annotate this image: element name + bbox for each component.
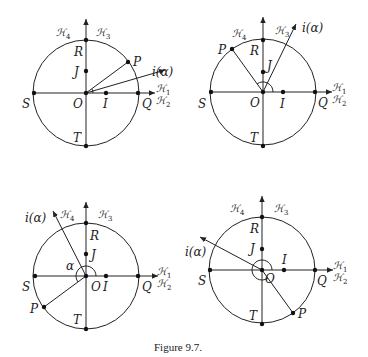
figure-9-7: ℋ4 ℋ3 ℋ1 ℋ2 R J S O I Q T P i(α) ℋ4 ℋ3 ℋ… <box>0 0 368 357</box>
figure-caption: Figure 9.7. <box>154 341 202 353</box>
label-Q: Q <box>142 280 152 294</box>
label-H4: ℋ4 <box>56 27 71 41</box>
label-T: T <box>73 131 82 145</box>
label-S: S <box>198 274 206 288</box>
label-O: O <box>250 96 260 110</box>
label-P: P <box>132 55 142 69</box>
panel-top-left: ℋ4 ℋ3 ℋ1 ℋ2 R J S O I Q T P i(α) <box>22 19 174 148</box>
label-H2: ℋ2 <box>332 94 346 108</box>
label-I: I <box>279 97 285 111</box>
label-H2: ℋ2 <box>333 272 347 286</box>
label-H4: ℋ4 <box>60 209 75 223</box>
label-P: P <box>217 43 227 57</box>
label-Q: Q <box>142 97 152 111</box>
label-I: I <box>102 97 108 111</box>
panel-bottom-right: ℋ4 ℋ3 ℋ1 ℋ2 i(α) R J I S O Q T P <box>185 196 347 326</box>
label-Q: Q <box>317 274 327 288</box>
label-O: O <box>73 97 83 111</box>
label-Q: Q <box>318 96 328 110</box>
label-J: J <box>247 242 256 256</box>
label-alpha: α <box>66 259 74 273</box>
label-i-alpha: i(α) <box>302 21 324 35</box>
label-I: I <box>102 280 108 294</box>
label-P: P <box>297 307 307 321</box>
label-i-alpha: i(α) <box>25 211 47 225</box>
label-S: S <box>22 97 30 111</box>
label-H2: ℋ2 <box>156 95 170 109</box>
label-H3: ℋ3 <box>96 27 110 41</box>
label-H3: ℋ3 <box>98 209 112 223</box>
label-H3: ℋ3 <box>274 203 288 217</box>
label-J: J <box>264 59 273 73</box>
label-P: P <box>29 302 39 316</box>
label-H4: ℋ4 <box>232 28 247 42</box>
label-S: S <box>22 280 30 294</box>
segment-OP <box>86 62 128 93</box>
label-R: R <box>249 44 259 58</box>
panel-top-right: ℋ4 ℋ3 ℋ1 ℋ2 i(α) P R J S O I Q T <box>198 17 346 148</box>
label-T: T <box>249 309 258 323</box>
label-H2: ℋ2 <box>157 278 171 292</box>
label-J: J <box>88 248 97 262</box>
label-I: I <box>281 253 287 267</box>
label-R: R <box>249 222 259 236</box>
label-R: R <box>89 229 99 243</box>
label-i-alpha: i(α) <box>185 245 207 259</box>
label-i-alpha: i(α) <box>152 65 174 79</box>
label-R: R <box>73 45 83 59</box>
label-J: J <box>71 65 80 79</box>
label-T: T <box>250 131 259 145</box>
label-H3: ℋ3 <box>275 25 289 39</box>
label-T: T <box>73 313 82 327</box>
segment-OP <box>44 276 86 307</box>
label-O: O <box>265 272 275 286</box>
panel-bottom-left: i(α) ℋ4 ℋ3 ℋ1 ℋ2 R J α S O I Q P T <box>22 202 171 331</box>
label-O: O <box>91 280 101 294</box>
label-H4: ℋ4 <box>230 203 245 217</box>
label-S: S <box>198 97 206 111</box>
